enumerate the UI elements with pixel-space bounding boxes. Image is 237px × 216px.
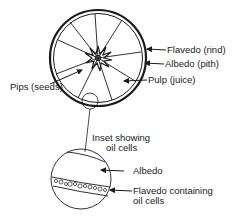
label-pulp: Pulp (juice) [148,75,196,85]
inset-marker [82,93,98,109]
citrus-diagram [0,0,237,216]
inset-flavedo-arrow [110,190,132,191]
label-inset-flavedo-line2: oil cells [133,196,164,206]
flavedo-arrow [147,49,166,50]
label-inset-line2: oil cells [106,143,137,153]
pulp-arrow [124,80,147,81]
label-albedo: Albedo (pith) [165,59,219,69]
label-inset-albedo: Albedo [133,166,163,176]
label-pips: Pips (seeds) [10,82,63,92]
label-flavedo: Flavedo (rind) [167,45,226,55]
albedo-arrow [145,63,164,64]
inset-circle [51,149,132,209]
inset-albedo-arrow [101,170,124,171]
